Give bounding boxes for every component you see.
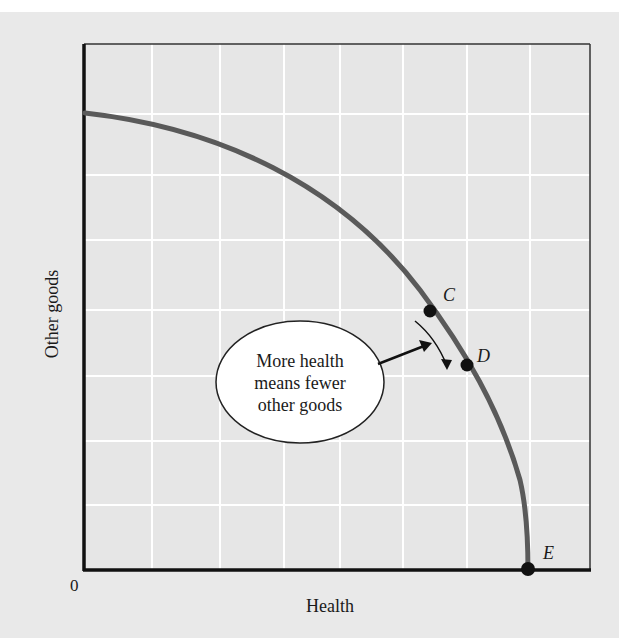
point-c-label: C [443,285,455,306]
callout-line-3: other goods [218,394,382,416]
origin-label: 0 [70,576,79,596]
callout-text: More health means fewer other goods [218,350,382,416]
callout-line-1: More health [218,350,382,372]
y-axis-label: Other goods [42,270,63,359]
point-e [521,562,535,576]
point-e-label: E [543,543,554,564]
plot-area [84,44,590,570]
x-axis-label: Health [306,596,354,617]
point-c [424,305,437,318]
callout-line-2: means fewer [218,372,382,394]
point-d [461,359,474,372]
ppf-chart: C D E More health means fewer other good… [0,0,619,638]
point-d-label: D [477,346,490,367]
chart-plot [0,0,619,638]
